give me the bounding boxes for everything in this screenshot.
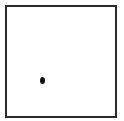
diagram-canvas xyxy=(0,0,124,121)
dot-marker xyxy=(40,77,45,84)
square-frame xyxy=(5,5,117,118)
